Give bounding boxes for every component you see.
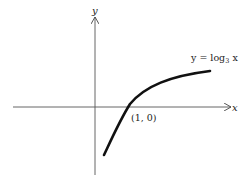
- log-curve: [104, 71, 210, 155]
- log-graph: y x y = log3 x (1, 0): [0, 0, 244, 179]
- x-axis-label: x: [232, 102, 238, 113]
- curve-label: y = log3 x: [190, 52, 238, 65]
- y-axis-label: y: [91, 5, 98, 16]
- point-label: (1, 0): [131, 112, 157, 123]
